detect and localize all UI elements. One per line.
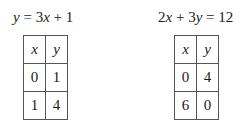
- variable-y: y: [13, 9, 20, 25]
- table-header-row: x y: [24, 36, 68, 64]
- header-x: x: [175, 36, 197, 64]
- equation-text: = 3: [20, 9, 43, 25]
- table-row: 0 4: [175, 64, 219, 92]
- cell-y: 0: [197, 92, 219, 120]
- table-row: 1 4: [24, 92, 68, 120]
- header-y: y: [197, 36, 219, 64]
- cell-y: 4: [46, 92, 68, 120]
- cell-y: 1: [46, 64, 68, 92]
- equation-left: y = 3x + 1: [13, 8, 73, 26]
- table-header-row: x y: [175, 36, 219, 64]
- cell-x: 0: [24, 64, 46, 92]
- cell-x: 0: [175, 64, 197, 92]
- equation-text: + 1: [50, 9, 73, 25]
- table-row: 6 0: [175, 92, 219, 120]
- table-row: 0 1: [24, 64, 68, 92]
- equation-text: 2: [158, 9, 166, 25]
- equation-text: = 12: [202, 9, 233, 25]
- table-of-values-left: x y 0 1 1 4: [23, 35, 68, 120]
- equation-right: 2x + 3y = 12: [158, 8, 233, 26]
- header-x: x: [24, 36, 46, 64]
- cell-x: 6: [175, 92, 197, 120]
- header-y: y: [46, 36, 68, 64]
- equation-text: + 3: [172, 9, 195, 25]
- table-of-values-right: x y 0 4 6 0: [174, 35, 219, 120]
- variable-x: x: [43, 9, 50, 25]
- cell-y: 4: [197, 64, 219, 92]
- cell-x: 1: [24, 92, 46, 120]
